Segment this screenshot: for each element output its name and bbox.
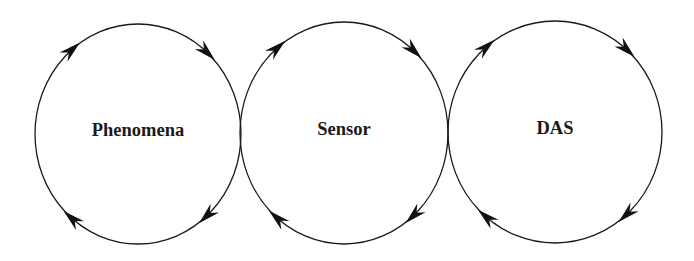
node-phenomena: Phenomena xyxy=(35,24,241,244)
arrowhead-icon xyxy=(64,211,84,230)
label-phenomena: Phenomena xyxy=(92,120,185,140)
node-das: DAS xyxy=(448,21,662,243)
arrowhead-icon xyxy=(478,210,499,229)
arrowhead-icon xyxy=(614,38,634,57)
arrowhead-icon xyxy=(402,39,422,59)
arrowhead-icon xyxy=(195,40,215,60)
node-sensor: Sensor xyxy=(240,22,448,244)
label-das: DAS xyxy=(536,118,573,138)
arrowhead-icon xyxy=(269,211,289,230)
label-sensor: Sensor xyxy=(317,119,370,139)
cycle-diagram: Phenomena Sensor DAS xyxy=(0,0,694,261)
